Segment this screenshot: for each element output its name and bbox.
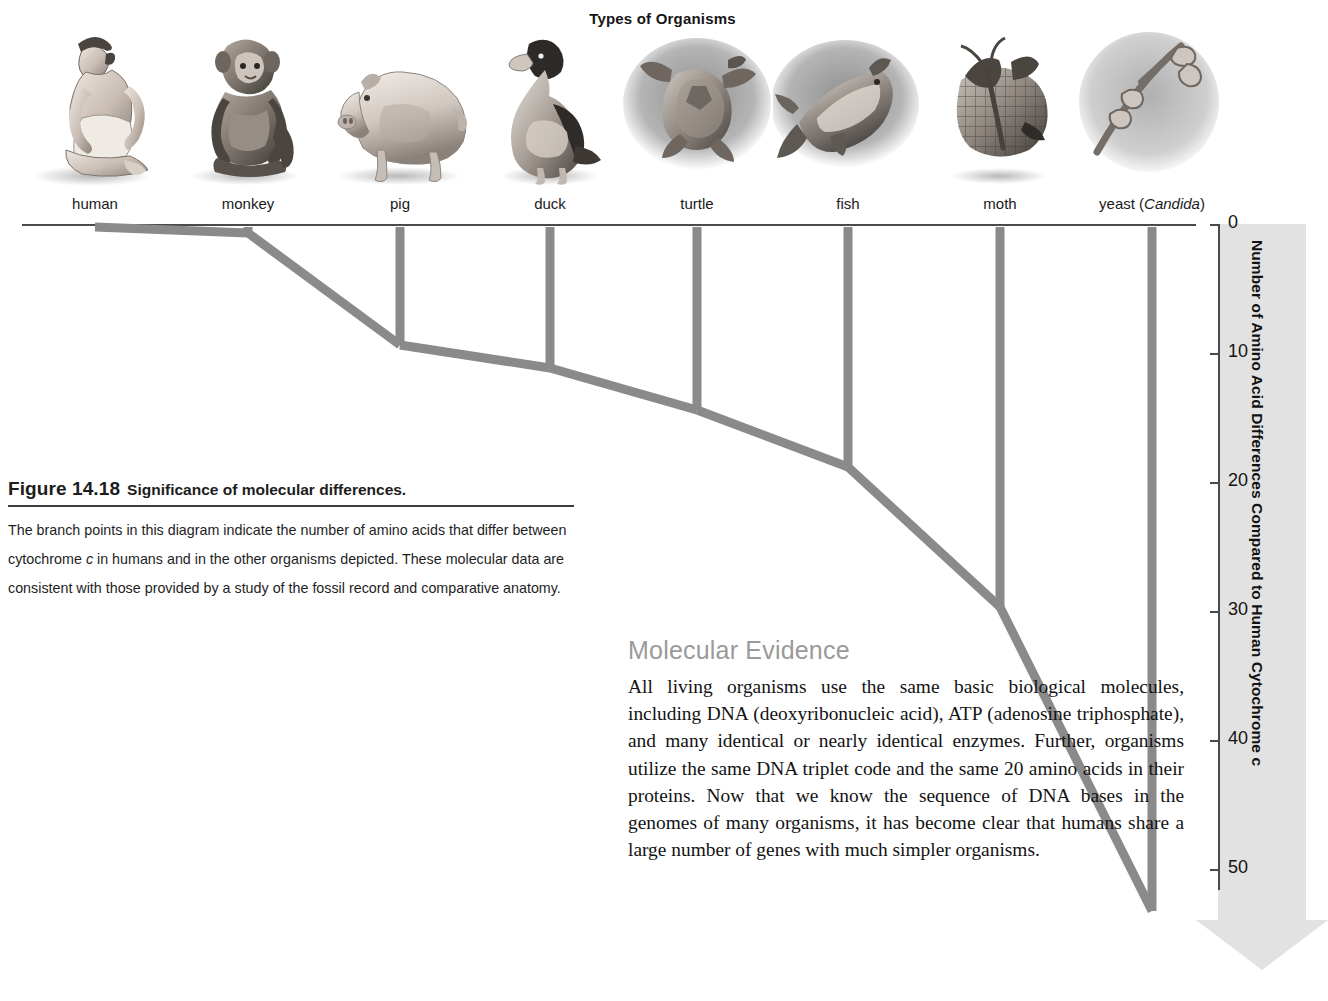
molecular-evidence-section: Molecular Evidence All living organisms … xyxy=(628,636,1188,863)
figure-caption-body: The branch points in this diagram indica… xyxy=(8,516,608,603)
caption-line-2: cytochrome c in humans and in the other … xyxy=(8,545,608,574)
y-axis-title: Number of Amino Acid Differences Compare… xyxy=(1248,240,1266,766)
y-tick-label-0: 0 xyxy=(1228,212,1238,233)
y-tick-label-50: 50 xyxy=(1228,857,1248,878)
caption-line-3: consistent with those provided by a stud… xyxy=(8,574,608,603)
branch-spine-pig-duck xyxy=(400,345,550,368)
section-heading: Molecular Evidence xyxy=(628,636,1188,665)
figure-number: Figure 14.18 xyxy=(8,478,120,499)
y-tick-30 xyxy=(1210,611,1220,613)
figure-caption: Figure 14.18Significance of molecular di… xyxy=(8,478,608,603)
y-tick-10 xyxy=(1210,353,1220,355)
y-tick-label-10: 10 xyxy=(1228,341,1248,362)
figure-caption-heading: Figure 14.18Significance of molecular di… xyxy=(8,478,608,505)
y-axis-line xyxy=(1218,224,1220,890)
y-tick-40 xyxy=(1210,740,1220,742)
y-tick-label-40: 40 xyxy=(1228,728,1248,749)
y-tick-20 xyxy=(1210,482,1220,484)
branch-spine-fish-moth xyxy=(848,467,1000,607)
y-tick-50 xyxy=(1210,869,1220,871)
branch-spine-monkey-pig xyxy=(248,233,400,345)
caption-line-1: The branch points in this diagram indica… xyxy=(8,516,608,545)
y-axis: 0 10 20 30 40 50 Number of Amino Acid Di… xyxy=(1196,200,1325,980)
figure-caption-rule xyxy=(8,505,574,507)
section-paragraph: All living organisms use the same basic … xyxy=(628,673,1184,863)
branch-spine-duck-turtle xyxy=(550,368,697,410)
y-tick-label-20: 20 xyxy=(1228,470,1248,491)
branch-human xyxy=(95,227,248,233)
branch-spine-turtle-fish xyxy=(697,410,848,467)
y-tick-label-30: 30 xyxy=(1228,599,1248,620)
y-tick-0 xyxy=(1210,224,1220,226)
y-axis-arrow-icon xyxy=(1196,890,1328,970)
figure-caption-title: Significance of molecular differences. xyxy=(127,481,406,498)
